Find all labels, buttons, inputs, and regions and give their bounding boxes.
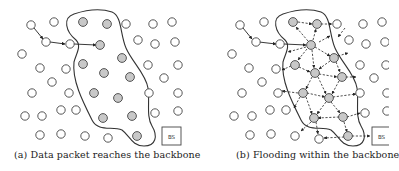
sensor-nodes (228, 18, 389, 143)
caption-panel-a: (a) Data packet reaches the backbone (14, 149, 200, 160)
backbone-boundary (276, 10, 365, 146)
panel-b: BS (228, 10, 389, 146)
backbone-nodes (289, 18, 353, 141)
panel-a: BS (18, 10, 182, 146)
sensor-nodes (18, 18, 182, 142)
flooding-arrows (282, 22, 370, 138)
backbone-nodes (79, 18, 142, 141)
base-station-b: BS (372, 127, 389, 145)
caption-panel-b: (b) Flooding within the backbone (236, 149, 399, 160)
backbone-boundary (67, 10, 156, 146)
svg-text:BS: BS (168, 134, 176, 140)
svg-text:BS: BS (378, 134, 386, 140)
base-station-a: BS (162, 127, 181, 145)
